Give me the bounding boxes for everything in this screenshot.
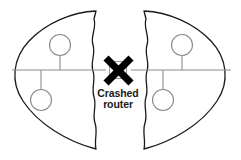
crashed-router-label-line2: router — [103, 98, 133, 110]
host-node-upper-left — [50, 35, 71, 56]
right-partition-boundary — [144, 11, 225, 149]
left-partition-boundary — [15, 11, 96, 149]
host-node-lower-right — [153, 90, 174, 111]
network-diagram-container: Crashed router — [0, 0, 241, 160]
host-node-lower-left — [31, 90, 52, 111]
network-diagram-canvas: Crashed router — [0, 0, 241, 160]
host-node-upper-right — [172, 35, 193, 56]
